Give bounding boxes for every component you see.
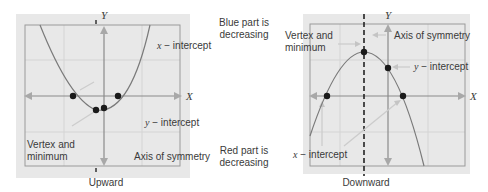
right-vertex-label: Vertex andminimum: [285, 30, 333, 54]
blue-part-note: Blue part isdecreasing: [214, 17, 274, 41]
x-intercept-right-point: [400, 93, 406, 99]
left-x-axis-label: X: [186, 90, 193, 102]
right-axis-of-symmetry-label: Axis of symmetry: [394, 30, 470, 42]
right-y-intercept-label: y − intercept: [414, 61, 468, 73]
right-x-axis-label: X: [470, 90, 477, 102]
vertex-point: [361, 49, 367, 55]
vertex-point: [93, 107, 99, 113]
left-axis-of-symmetry-label: Axis of symmetry: [134, 151, 210, 163]
right-y-axis-label: Y: [385, 9, 391, 21]
red-part-note: Red part isdecreasing: [214, 145, 274, 169]
left-vertex-label: Vertex andminimum: [27, 139, 75, 163]
upward-caption: Upward: [86, 177, 126, 189]
left-y-intercept-label: y − intercept: [145, 117, 199, 129]
left-x-intercept-label: x − intercept: [157, 40, 211, 52]
left-y-axis-label: Y: [101, 9, 107, 21]
y-intercept-point: [101, 105, 107, 111]
downward-caption: Downward: [339, 177, 393, 189]
x-intercept-left-point: [70, 93, 76, 99]
right-x-intercept-label: x − intercept: [293, 149, 347, 161]
y-intercept-point: [385, 65, 391, 71]
x-intercept-right-point: [115, 93, 121, 99]
x-intercept-left-point: [324, 93, 330, 99]
